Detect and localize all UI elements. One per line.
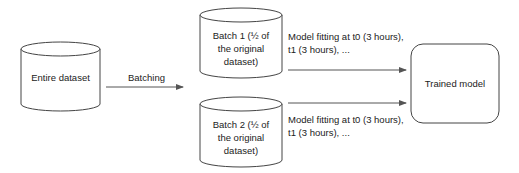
batching-label: Batching <box>128 71 165 84</box>
trained-model-label: Trained model <box>411 77 499 90</box>
fit2-label-line1: Model fitting at t0 (3 hours), <box>288 113 404 126</box>
fit1-label: Model fitting at t0 (3 hours), t1 (3 hou… <box>288 30 404 56</box>
batch2-label-line3: dataset) <box>200 144 282 157</box>
batch1-label-line3: dataset) <box>200 55 282 68</box>
fit2-label: Model fitting at t0 (3 hours), t1 (3 hou… <box>288 113 404 139</box>
batch2-label: Batch 2 (½ of the original dataset) <box>200 118 282 157</box>
fit2-label-line2: t1 (3 hours), ... <box>288 126 404 139</box>
batch2-label-line1: Batch 2 (½ of <box>200 118 282 131</box>
fit1-label-line2: t1 (3 hours), ... <box>288 43 404 56</box>
batch1-label-line1: Batch 1 (½ of <box>200 29 282 42</box>
batch1-label: Batch 1 (½ of the original dataset) <box>200 29 282 68</box>
batch1-label-line2: the original <box>200 42 282 55</box>
entire-dataset-label: Entire dataset <box>21 71 100 84</box>
fit1-label-line1: Model fitting at t0 (3 hours), <box>288 30 404 43</box>
batch2-label-line2: the original <box>200 131 282 144</box>
